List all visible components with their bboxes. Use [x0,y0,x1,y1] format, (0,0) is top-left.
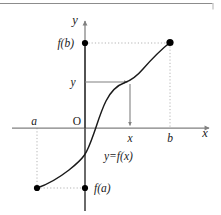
point-f-b-on-axis [82,40,88,46]
tick-label-y-value: y [69,76,76,89]
origin-label: O [73,115,81,127]
point-right-endpoint [166,39,173,46]
tick-label-b: b [167,132,173,144]
guide-lines-solid [85,82,130,126]
tick-label-f-of-a: f(a) [94,182,111,195]
top-frame-border [0,3,213,10]
x-axis-label: x [201,126,208,140]
figure-container: y x O a b x y f(b) f(a) y=f(x) [0,0,221,215]
curve-path [37,43,170,189]
tick-label-x-value: x [126,132,133,144]
tick-label-f-of-b: f(b) [57,37,74,50]
figure-labels: y x O a b x y f(b) f(a) y=f(x) [31,13,208,195]
curve-equation-label: y=f(x) [103,150,133,163]
y-axis-label: y [70,13,78,27]
function-graph-figure: y x O a b x y f(b) f(a) y=f(x) [0,0,221,215]
point-f-a-on-axis [82,185,88,191]
guide-lines-dotted [37,43,170,188]
marked-points [34,39,174,191]
point-left-endpoint [34,185,40,191]
tick-label-a: a [31,115,37,127]
function-curve [37,43,170,189]
